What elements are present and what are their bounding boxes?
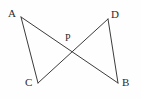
vertex-label-c: C	[25, 77, 32, 88]
segment-c-d	[38, 19, 108, 83]
vertex-label-p: P	[65, 33, 71, 43]
segment-d-b	[108, 19, 118, 83]
geometry-figure: A D P C B	[0, 0, 141, 99]
vertex-label-b: B	[122, 77, 129, 88]
geometry-canvas	[0, 0, 141, 99]
vertex-label-a: A	[8, 8, 16, 19]
vertex-label-d: D	[111, 9, 119, 20]
